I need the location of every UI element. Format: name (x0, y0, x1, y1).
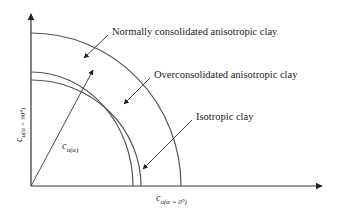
x-axis-label: cu(α = 0°) (156, 192, 187, 206)
oc-anisotropic-curve (31, 72, 133, 186)
isotropic-leader-arrow (143, 120, 192, 169)
oc-leader-arrow (124, 78, 150, 104)
radius-vector-arrow (31, 70, 93, 186)
oc-label: Overconsolidated anisotropic clay (154, 69, 298, 80)
nc-label: Normally consolidated anisotropic clay (112, 26, 278, 37)
nc-leader-arrow (84, 35, 108, 58)
isotropic-curve (31, 80, 141, 186)
radius-label: cu(α) (62, 140, 79, 154)
y-axis-label: cu(α = 90°) (13, 107, 27, 142)
isotropic-label: Isotropic clay (196, 111, 254, 122)
anisotropy-diagram: Normally consolidated anisotropic clay O… (0, 0, 337, 209)
